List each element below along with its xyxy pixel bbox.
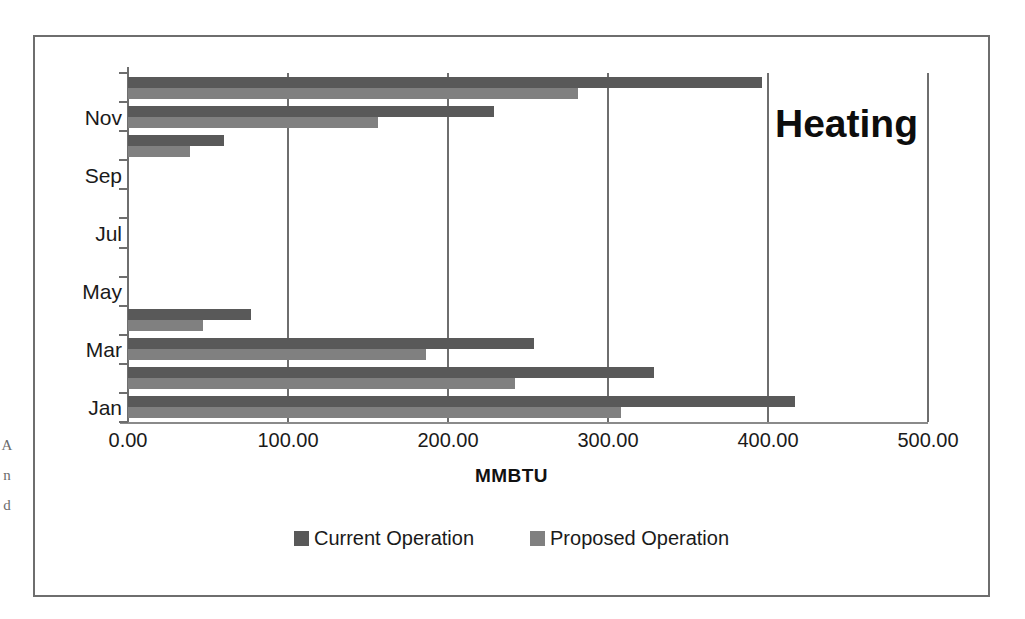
bar-oct-current [128, 135, 224, 146]
bar-jan-current [128, 396, 795, 407]
bar-nov-proposed [128, 117, 378, 128]
y-axis-label-nov: Nov [85, 107, 122, 128]
bar-apr-current [128, 309, 251, 320]
y-axis-tick [119, 72, 128, 74]
y-axis-label-mar: Mar [86, 339, 122, 360]
y-axis-tick [119, 247, 128, 249]
y-axis-label-jul: Jul [95, 223, 122, 244]
y-axis-tick [119, 101, 128, 103]
bar-feb-proposed [128, 378, 515, 389]
gridline-400.00 [767, 73, 769, 422]
x-axis-tick-label-400: 400.00 [737, 429, 798, 452]
y-axis-tick [119, 188, 128, 190]
bar-dec-current [128, 77, 762, 88]
legend-swatch-icon [530, 531, 545, 546]
legend-item-current-operation[interactable]: Current Operation [294, 527, 474, 550]
plot-area [128, 73, 928, 422]
bar-oct-proposed [128, 146, 190, 157]
x-axis-tick-label-500: 500.00 [897, 429, 958, 452]
gridline-500.00 [927, 73, 929, 422]
x-axis-title: MMBTU [35, 465, 988, 487]
bar-dec-proposed [128, 88, 578, 99]
y-axis-tick [119, 392, 128, 394]
y-axis-label-jan: Jan [88, 397, 122, 418]
x-axis-tick-label-0: 0.00 [109, 429, 148, 452]
y-axis-tick [119, 130, 128, 132]
y-axis-tick [119, 217, 128, 219]
y-axis-label-sep: Sep [85, 165, 122, 186]
x-axis-tick-label-200: 200.00 [417, 429, 478, 452]
x-axis-tick-labels: 0.00100.00200.00300.00400.00500.00 [128, 429, 928, 459]
y-axis-tick [119, 305, 128, 307]
legend-swatch-icon [294, 531, 309, 546]
bar-mar-proposed [128, 349, 426, 360]
bar-feb-current [128, 367, 654, 378]
chart-legend: Current OperationProposed Operation [35, 527, 988, 550]
x-axis-tick-label-300: 300.00 [577, 429, 638, 452]
bar-jan-proposed [128, 407, 621, 418]
legend-label: Current Operation [314, 527, 474, 550]
x-axis-line [120, 422, 928, 424]
x-axis-tick-label-100: 100.00 [257, 429, 318, 452]
bar-apr-proposed [128, 320, 203, 331]
y-axis-tick [119, 363, 128, 365]
scan-artifact-marks: And [0, 430, 14, 600]
y-axis-tick [119, 334, 128, 336]
y-axis-tick [119, 159, 128, 161]
bar-mar-current [128, 338, 534, 349]
chart-figure-frame: Heating JanMarMayJulSepNov 0.00100.00200… [33, 35, 990, 597]
y-axis-tick [119, 421, 128, 423]
y-axis-tick [119, 276, 128, 278]
y-axis-label-may: May [82, 281, 122, 302]
legend-label: Proposed Operation [550, 527, 729, 550]
legend-item-proposed-operation[interactable]: Proposed Operation [530, 527, 729, 550]
bar-nov-current [128, 106, 494, 117]
y-axis-label-column: JanMarMayJulSepNov [35, 73, 122, 422]
